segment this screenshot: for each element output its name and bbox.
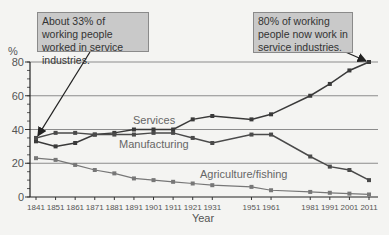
data-point (112, 171, 116, 175)
data-point (367, 192, 371, 196)
data-point (132, 176, 136, 180)
x-tick-label: 2011 (360, 203, 378, 212)
callout-2011: 80% of working people now work in servic… (253, 12, 353, 53)
data-point (73, 141, 77, 145)
y-tick-label: 80 (12, 56, 24, 68)
x-tick-label: 1871 (86, 203, 104, 212)
data-point (308, 94, 312, 98)
y-tick-label: 60 (12, 90, 24, 102)
y-axis-unit: % (8, 45, 18, 57)
y-tick-label: 40 (12, 124, 24, 136)
series-label-agriculture: Agriculture/fishing (200, 168, 287, 180)
data-point (171, 180, 175, 184)
data-point (269, 133, 273, 137)
data-point (269, 112, 273, 116)
data-point (132, 133, 136, 137)
data-point (112, 133, 116, 137)
x-tick-label: 1981 (301, 203, 319, 212)
data-point (73, 131, 77, 135)
data-point (249, 185, 253, 189)
x-tick-label: 1951 (243, 203, 261, 212)
x-tick-label: 1961 (262, 203, 280, 212)
data-point (328, 191, 332, 195)
data-point (73, 163, 77, 167)
y-tick-label: 20 (12, 157, 24, 169)
data-point (34, 156, 38, 160)
data-point (210, 141, 214, 145)
series-label-manufacturing: Manufacturing (119, 138, 189, 150)
data-point (249, 117, 253, 121)
x-tick-label: 1991 (321, 203, 339, 212)
data-point (308, 155, 312, 159)
data-point (93, 133, 97, 137)
data-point (367, 60, 371, 64)
data-point (34, 136, 38, 140)
data-point (152, 131, 156, 135)
x-tick-label: 1911 (165, 203, 183, 212)
x-tick-label: 1921 (184, 203, 202, 212)
x-tick-label: 1861 (66, 203, 84, 212)
data-point (93, 168, 97, 172)
data-point (367, 178, 371, 182)
data-point (347, 68, 351, 72)
data-point (328, 165, 332, 169)
data-point (152, 178, 156, 182)
data-point (191, 136, 195, 140)
data-point (269, 188, 273, 192)
x-axis-title: Year (192, 212, 215, 224)
x-tick-label: 2001 (341, 203, 359, 212)
data-point (54, 144, 58, 148)
y-tick-label: 0 (18, 191, 24, 203)
callout-1841: About 33% of working people worked in se… (37, 12, 149, 52)
data-point (210, 114, 214, 118)
data-point (54, 158, 58, 162)
data-point (191, 117, 195, 121)
data-point (249, 133, 253, 137)
x-tick-label: 1841 (27, 203, 45, 212)
data-point (328, 82, 332, 86)
x-tick-label: 1931 (203, 203, 221, 212)
data-point (54, 131, 58, 135)
data-point (347, 168, 351, 172)
data-point (210, 183, 214, 187)
x-tick-label: 1891 (125, 203, 143, 212)
data-point (347, 192, 351, 196)
data-point (132, 128, 136, 132)
data-point (191, 182, 195, 186)
x-tick-label: 1851 (47, 203, 65, 212)
data-point (308, 190, 312, 194)
data-point (171, 131, 175, 135)
series-label-services: Services (133, 114, 176, 126)
x-tick-label: 1881 (105, 203, 123, 212)
x-tick-label: 1901 (145, 203, 163, 212)
